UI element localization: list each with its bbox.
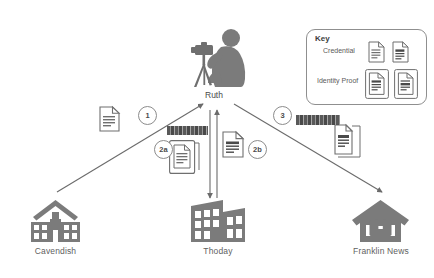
photographer-icon (190, 27, 254, 89)
diagram-canvas: Ruth Cavendish Thoday Franklin News (0, 0, 434, 278)
document-icon (368, 41, 385, 63)
step-marker-1: 1 (138, 106, 157, 125)
step-marker-2b: 2b (248, 140, 267, 159)
key-row-label-credential: Credential (323, 47, 355, 54)
key-legend-box: Key Credential Identity Proof (306, 29, 427, 105)
key-row-label-identity-proof: Identity Proof (317, 77, 358, 84)
redacted-label-3 (296, 115, 340, 125)
house-briefcase-icon (352, 200, 409, 242)
office-building-icon (190, 198, 247, 242)
id-card-icon (365, 69, 389, 99)
node-label-cavendish: Cavendish (14, 246, 97, 256)
document-icon (99, 106, 120, 132)
id-card-icon (394, 69, 418, 99)
redacted-label-2a (167, 126, 208, 135)
actor-label-ruth: Ruth (205, 90, 223, 100)
node-label-franklin-news: Franklin News (344, 246, 418, 256)
document-icon (392, 41, 409, 63)
school-building-icon (29, 200, 82, 242)
step-marker-2a: 2a (154, 140, 173, 159)
node-label-thoday: Thoday (186, 246, 250, 256)
step-marker-3: 3 (273, 106, 292, 125)
id-card-icon (169, 140, 200, 174)
key-title: Key (315, 34, 330, 43)
document-icon (222, 131, 244, 158)
id-card-icon (330, 124, 362, 160)
